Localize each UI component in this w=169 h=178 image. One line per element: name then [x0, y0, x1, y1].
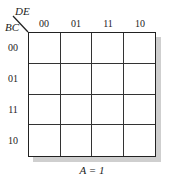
column-variable-label: DE — [15, 6, 30, 16]
kmap-cell — [61, 125, 93, 156]
column-label-11: 11 — [92, 19, 124, 29]
kmap-cell — [29, 33, 61, 64]
kmap-cell — [92, 95, 124, 126]
caption-text: A = 1 — [80, 164, 105, 176]
row-variable-label: BC — [5, 22, 19, 32]
kmap-cell — [92, 33, 124, 64]
row-label-11: 11 — [4, 105, 22, 115]
kmap-cell — [124, 95, 156, 126]
kmap-cell — [61, 64, 93, 95]
row-label-10: 10 — [4, 136, 22, 146]
row-label-00: 00 — [4, 43, 22, 53]
karnaugh-map-grid — [28, 32, 156, 157]
kmap-cell — [124, 33, 156, 64]
column-label-00: 00 — [28, 19, 60, 29]
kmap-cell — [29, 64, 61, 95]
kmap-cell — [29, 125, 61, 156]
kmap-cell — [92, 64, 124, 95]
kmap-cell — [61, 33, 93, 64]
map-caption: A = 1 — [28, 164, 156, 176]
kmap-cell — [29, 95, 61, 126]
kmap-cell — [92, 125, 124, 156]
column-label-10: 10 — [124, 19, 156, 29]
kmap-cell — [124, 125, 156, 156]
kmap-cell — [61, 95, 93, 126]
row-label-01: 01 — [4, 74, 22, 84]
column-label-01: 01 — [60, 19, 92, 29]
kmap-cell — [124, 64, 156, 95]
